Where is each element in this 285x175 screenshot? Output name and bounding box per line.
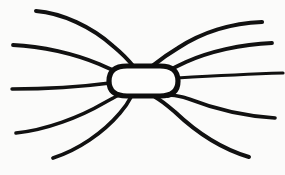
figure-canvas (0, 0, 285, 175)
central-oval-core (109, 66, 178, 96)
field-line-diagram (0, 0, 285, 175)
